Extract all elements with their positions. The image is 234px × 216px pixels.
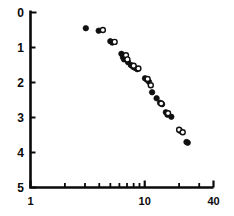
y-tick-label: 3 (2, 112, 24, 124)
data-point-open (145, 77, 150, 82)
y-tick-label: 2 (2, 77, 24, 89)
data-point-filled (83, 26, 88, 31)
y-tick-label: 0 (2, 7, 24, 19)
series-filled (83, 26, 190, 146)
y-tick-label: 1 (2, 42, 24, 54)
data-point-open (100, 28, 105, 33)
data-point-open (125, 57, 130, 62)
data-point-filled (149, 90, 154, 95)
x-tick-label: 40 (194, 196, 234, 207)
data-point-open (136, 66, 141, 71)
x-tick-label: 1 (11, 196, 51, 207)
y-tick-label: 5 (2, 182, 24, 194)
data-point-open (180, 130, 185, 135)
data-point-open (148, 83, 153, 88)
scatter-plot-svg (0, 0, 234, 216)
data-point-open (112, 39, 117, 44)
y-tick-label: 4 (2, 147, 24, 159)
chart-figure: 01234511040 (0, 0, 234, 216)
x-tick-label: 10 (125, 196, 165, 207)
data-point-open (166, 111, 171, 116)
data-point-open (159, 101, 164, 106)
data-point-filled (185, 140, 190, 145)
